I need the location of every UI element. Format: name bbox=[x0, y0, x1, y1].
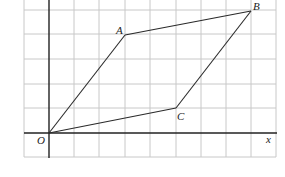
label-b: B bbox=[253, 0, 260, 12]
edge-ab bbox=[125, 11, 251, 35]
labels: O A B C x bbox=[37, 0, 271, 146]
label-a: A bbox=[115, 24, 123, 36]
label-o: O bbox=[37, 134, 45, 146]
coordinate-diagram: O A B C x bbox=[0, 0, 285, 177]
edge-co bbox=[49, 108, 176, 133]
label-x-axis: x bbox=[265, 133, 271, 145]
label-c: C bbox=[177, 110, 185, 122]
